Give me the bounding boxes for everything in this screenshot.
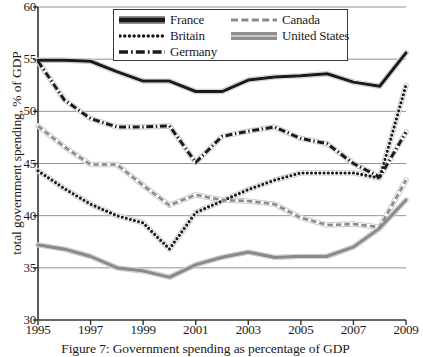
legend-label: Canada	[282, 13, 320, 26]
dashed-line-icon	[231, 14, 277, 26]
x-tick-label: 1995	[18, 322, 58, 337]
legend-label: United States	[282, 29, 349, 42]
legend-entry-france: France	[119, 12, 217, 27]
series-line-canada	[38, 126, 406, 227]
dotted-line-icon	[119, 30, 165, 42]
legend-entry-britain: Britain	[119, 28, 217, 43]
legend-entry-germany: Germany	[119, 44, 217, 59]
legend-label: Germany	[170, 45, 217, 58]
legend-column-left: FranceBritainGermany	[119, 12, 217, 60]
legend-label: France	[170, 13, 204, 26]
figure-caption: Figure 7: Government spending as percent…	[0, 341, 411, 357]
x-axis-tick-labels: 19951997199920012003200520072009	[0, 322, 411, 340]
legend-entry-canada: Canada	[231, 12, 349, 27]
x-tick-label: 2001	[176, 322, 216, 337]
x-tick-label: 2007	[333, 322, 373, 337]
legend-label: Britain	[170, 29, 205, 42]
x-tick-label: 1999	[123, 322, 163, 337]
x-tick-label: 2005	[281, 322, 321, 337]
series-line-united-states	[38, 200, 406, 277]
x-tick-label: 1997	[71, 322, 111, 337]
legend-column-right: CanadaUnited States	[231, 12, 349, 44]
solid-thick-line-icon	[119, 14, 165, 26]
y-axis-title: total government spending, % of GDP	[9, 3, 25, 303]
x-tick-label: 2003	[228, 322, 268, 337]
data-series-group	[38, 53, 406, 277]
dash-dot-line-icon	[119, 46, 165, 58]
chart-legend: FranceBritainGermany CanadaUnited States	[113, 9, 348, 61]
legend-entry-united-states: United States	[231, 28, 349, 43]
x-tick-label: 2009	[386, 322, 423, 337]
double-gray-line-icon	[231, 30, 277, 42]
